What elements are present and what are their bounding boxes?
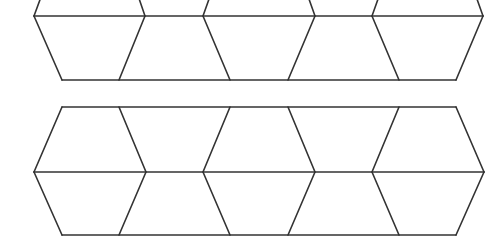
bottom-hexagon-strip (34, 107, 484, 235)
hexagon-2-upper-right-edge (456, 0, 483, 16)
hexagon-1-lower-left-edge (203, 172, 230, 235)
hexagon-0-upper-left-edge (34, 0, 62, 16)
hexagon-2-lower-left-edge (372, 16, 399, 80)
hexagon-1-lower-right-edge (288, 172, 315, 235)
hexagon-2-lower-right-edge (456, 16, 483, 80)
hexagon-2-upper-left-edge (372, 107, 399, 172)
hexagon-0-upper-left-edge (34, 107, 62, 172)
hexagon-1-lower-right-edge (288, 16, 315, 80)
hexagon-2-upper-right-edge (456, 107, 484, 172)
hexagon-0-lower-right-edge (119, 172, 146, 235)
hexagon-0-lower-left-edge (34, 172, 62, 235)
hexagon-1-lower-left-edge (203, 16, 230, 80)
hexagon-0-lower-left-edge (34, 16, 62, 80)
hexagon-1-upper-left-edge (203, 0, 230, 16)
diagram-svg (0, 0, 497, 243)
hexagon-1-upper-right-edge (288, 107, 315, 172)
hexagon-0-lower-right-edge (119, 16, 145, 80)
hexagon-1-upper-left-edge (203, 107, 230, 172)
hexagon-0-upper-right-edge (119, 0, 145, 16)
hexagon-2-lower-left-edge (372, 172, 399, 235)
hexagon-0-upper-right-edge (119, 107, 146, 172)
hexagon-2-upper-left-edge (372, 0, 399, 16)
hexagon-2-lower-right-edge (456, 172, 484, 235)
hexagon-strip-diagram (0, 0, 497, 243)
hexagon-1-upper-right-edge (288, 0, 315, 16)
top-hexagon-strip (34, 0, 483, 80)
